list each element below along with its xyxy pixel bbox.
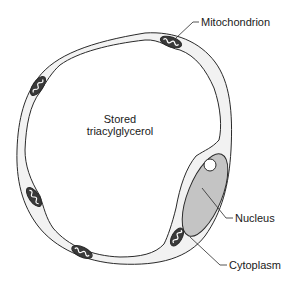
label-stored-line2: triacylglycerol: [60, 125, 180, 137]
adipocyte-diagram: Mitochondrion Nucleus Cytoplasm Stored t…: [0, 0, 291, 286]
label-nucleus: Nucleus: [235, 212, 275, 224]
label-mitochondrion: Mitochondrion: [201, 16, 270, 28]
leader-line-mitochondrion: [176, 22, 199, 38]
nucleolus: [204, 159, 216, 171]
cell-drawing: [0, 0, 291, 286]
label-cytoplasm: Cytoplasm: [229, 259, 281, 271]
label-stored-line1: Stored: [60, 113, 180, 125]
